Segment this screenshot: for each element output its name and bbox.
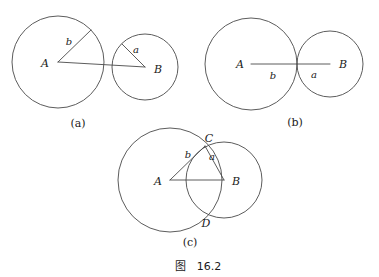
panel-a-label-a: a — [133, 44, 139, 55]
panel-a-center-line-AB — [58, 62, 145, 67]
figure-caption-group: 图 16.2 — [175, 260, 222, 273]
panel-b-label-b: b — [270, 70, 276, 81]
geometry-figure-svg: A B b a (a) A B b a (b) A — [0, 0, 379, 277]
panel-a-label-b: b — [66, 36, 72, 47]
figure-caption-number: 16.2 — [197, 260, 222, 273]
panel-c-label-B: B — [231, 175, 240, 188]
panel-a-label-B: B — [153, 63, 162, 76]
panel-a-sublabel: (a) — [70, 117, 85, 130]
panel-a-label-A: A — [40, 57, 49, 70]
figure-caption-cjk: 图 — [175, 260, 186, 273]
panel-c-sublabel: (c) — [183, 236, 198, 249]
panel-c-label-a: a — [209, 151, 215, 162]
panel-c-label-C: C — [205, 132, 214, 145]
panel-a-group: A B b a (a) — [12, 16, 178, 130]
panel-b-sublabel: (b) — [287, 116, 303, 129]
panel-c-label-D: D — [201, 217, 211, 230]
panel-c-label-A: A — [153, 175, 162, 188]
panel-c-group: A B b a C D (c) — [118, 128, 262, 249]
panel-b-label-B: B — [338, 58, 347, 71]
panel-c-label-b: b — [185, 149, 191, 160]
panel-b-label-a: a — [311, 69, 317, 80]
panel-b-group: A B b a (b) — [205, 18, 363, 129]
panel-a-radius-b-line — [58, 30, 91, 62]
panel-b-label-A: A — [235, 58, 244, 71]
figure-container: A B b a (a) A B b a (b) A — [0, 0, 379, 277]
